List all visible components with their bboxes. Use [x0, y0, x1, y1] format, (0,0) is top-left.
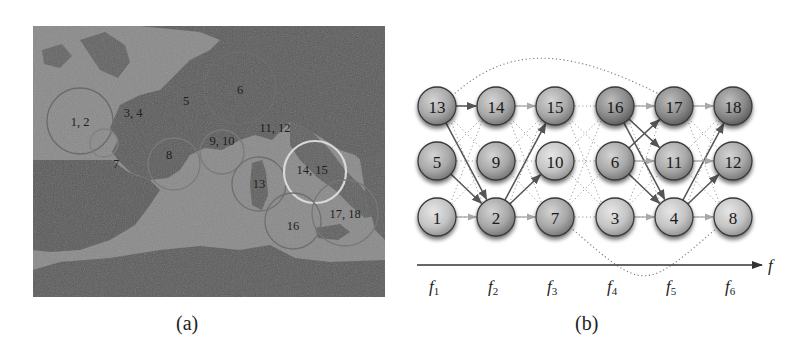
node-16: 16	[596, 87, 634, 125]
node-6: 6	[596, 142, 634, 180]
node-label: 1	[433, 209, 442, 228]
edge-5-to-2	[451, 174, 482, 203]
node-11: 11	[655, 142, 693, 180]
region-label: 16	[287, 219, 300, 233]
figure-canvas: 1, 23, 456789, 1011, 121314, 151617, 18 …	[0, 0, 811, 356]
feature-labels: f1f2f3f4f5f6	[429, 277, 736, 297]
region-label: 9, 10	[210, 134, 235, 148]
node-7: 7	[536, 198, 574, 236]
node-label: 14	[488, 98, 506, 117]
node-label: 18	[725, 98, 742, 117]
node-18: 18	[714, 87, 752, 125]
region-label: 7	[113, 157, 119, 171]
node-8: 8	[714, 198, 752, 236]
region-label: 17, 18	[329, 207, 360, 221]
region-label: 13	[253, 177, 266, 191]
node-label: 17	[666, 98, 684, 117]
node-label: 15	[547, 98, 564, 117]
node-label: 5	[433, 153, 442, 172]
edge-6-to-4	[629, 174, 660, 203]
region-label: 5	[183, 94, 189, 108]
node-label: 7	[551, 209, 560, 228]
node-label: 16	[607, 98, 624, 117]
map-background	[33, 26, 385, 297]
node-5: 5	[418, 142, 456, 180]
node-label: 13	[429, 98, 446, 117]
panel-a-caption: (a)	[176, 312, 198, 335]
region-label: 6	[237, 83, 243, 97]
edge-4-to-12	[688, 175, 719, 204]
feature-label-f5: f5	[666, 277, 677, 297]
node-label: 10	[547, 153, 564, 172]
node-2: 2	[477, 198, 515, 236]
node-label: 9	[492, 153, 501, 172]
node-17: 17	[655, 87, 693, 125]
feature-label-f3: f3	[547, 277, 558, 297]
node-9: 9	[477, 142, 515, 180]
dotted-arc-bottom	[570, 227, 718, 276]
node-label: 8	[729, 209, 738, 228]
feature-axis-label: f	[768, 256, 775, 275]
feature-label-f2: f2	[488, 277, 498, 297]
region-label: 1, 2	[71, 115, 90, 129]
node-4: 4	[655, 198, 693, 236]
panel-b-caption: (b)	[575, 312, 598, 335]
node-10: 10	[536, 142, 574, 180]
feature-label-f6: f6	[725, 277, 736, 297]
region-label: 3, 4	[124, 106, 144, 120]
panel-b-graph: 135114921510716631711418128 f f1f2f3f4f5…	[417, 58, 775, 297]
node-3: 3	[596, 198, 634, 236]
node-1: 1	[418, 198, 456, 236]
edge-2-to-10	[510, 175, 541, 204]
region-label: 14, 15	[296, 163, 327, 177]
node-14: 14	[477, 87, 515, 125]
feature-label-f1: f1	[429, 277, 439, 297]
region-label: 11, 12	[260, 121, 291, 135]
panel-a-map: 1, 23, 456789, 1011, 121314, 151617, 18	[33, 26, 385, 297]
node-label: 2	[492, 209, 501, 228]
region-label: 8	[166, 148, 172, 162]
feature-label-f4: f4	[607, 277, 618, 297]
node-13: 13	[418, 87, 456, 125]
node-15: 15	[536, 87, 574, 125]
node-label: 6	[611, 153, 620, 172]
node-label: 3	[611, 209, 620, 228]
node-label: 4	[670, 209, 679, 228]
node-12: 12	[714, 142, 752, 180]
node-label: 11	[666, 153, 682, 172]
node-label: 12	[725, 153, 742, 172]
